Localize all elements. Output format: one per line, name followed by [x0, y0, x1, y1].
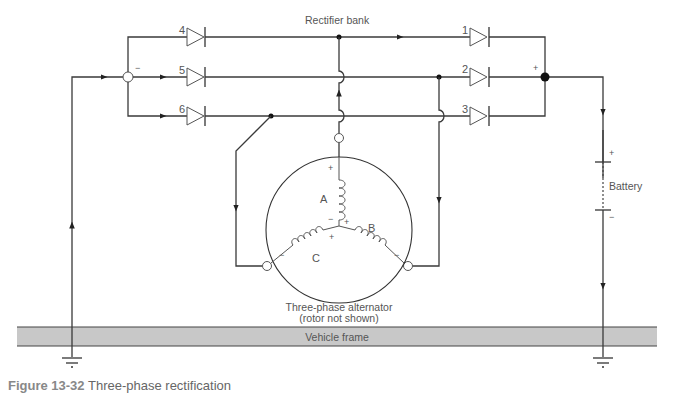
- ground-symbol-right: [593, 358, 613, 367]
- phase-b-lead: [404, 75, 445, 271]
- svg-text:+: +: [329, 232, 334, 242]
- figure-caption: Figure 13-32 Three-phase rectification: [8, 378, 231, 393]
- vehicle-frame: Vehicle frame: [17, 327, 657, 346]
- svg-text:−: −: [609, 212, 614, 222]
- svg-text:+: +: [609, 148, 614, 158]
- alternator-sublabel: (rotor not shown): [299, 312, 378, 324]
- rectifier-bank-label: Rectifier bank: [305, 14, 370, 26]
- negative-junction: [123, 72, 133, 82]
- svg-text:−: −: [279, 250, 284, 260]
- ground-symbol-left: [62, 358, 82, 367]
- winding-c-label: C: [312, 252, 320, 264]
- rectifier-rows: [205, 37, 470, 116]
- negative-return-wire: [62, 77, 126, 367]
- vehicle-frame-label: Vehicle frame: [305, 331, 369, 343]
- phase-a-lead: [335, 35, 345, 158]
- caption-text: Three-phase rectification: [88, 378, 231, 393]
- diode-3: 3: [462, 103, 489, 126]
- caption-figure-number: Figure 13-32: [8, 378, 85, 393]
- positive-bus: +: [489, 37, 603, 178]
- svg-text:2: 2: [462, 63, 468, 75]
- negative-junction-sign: −: [135, 63, 140, 73]
- diode-4: 4: [179, 24, 205, 47]
- svg-text:4: 4: [179, 24, 185, 36]
- positive-junction: [541, 73, 550, 82]
- svg-text:+: +: [344, 217, 349, 227]
- svg-text:−: −: [328, 214, 333, 224]
- svg-text:1: 1: [462, 24, 468, 36]
- winding-a-label: A: [320, 193, 328, 205]
- diode-5: 5: [179, 64, 205, 87]
- diode-6: 6: [179, 103, 205, 126]
- svg-text:−: −: [394, 250, 399, 260]
- winding-b-label: B: [368, 222, 375, 234]
- three-phase-alternator: + A − + B − + C − Three-phase alternator…: [266, 157, 412, 324]
- battery-label: Battery: [609, 180, 643, 192]
- diode-2: 2: [462, 63, 489, 87]
- svg-text:5: 5: [179, 64, 185, 76]
- svg-text:3: 3: [462, 103, 468, 115]
- svg-text:6: 6: [179, 103, 185, 115]
- svg-text:+: +: [328, 163, 333, 173]
- diode-1: 1: [462, 24, 489, 47]
- svg-text:+: +: [533, 63, 538, 73]
